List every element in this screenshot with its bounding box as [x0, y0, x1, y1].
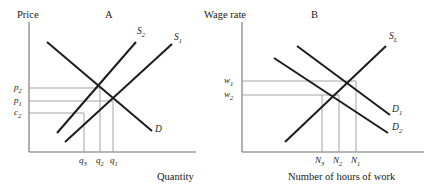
panel-b-x-tick-n3-sub: 3: [321, 160, 324, 167]
panel-b-curve-label-sl: SL: [389, 32, 397, 43]
panel-b-x-tick-n2: N2: [333, 156, 342, 167]
panel-a-curve-label-s1-sub: 1: [179, 37, 182, 44]
panel-a-y-tick-p1: p1: [14, 96, 22, 107]
panel-a-guides: [29, 88, 113, 152]
panel-b-y-tick-w1: w1: [224, 76, 233, 87]
panel-a-x-tick-q1-sub: 1: [115, 160, 118, 167]
panel-b-y-tick-w2-sub: 2: [230, 94, 233, 101]
panel-b-y-axis-title: Wage rate: [204, 10, 246, 21]
panel-a-y-tick-c2: c2: [14, 108, 21, 119]
panel-b-x-tick-n3: N3: [315, 156, 324, 167]
curve-demand-d: [47, 42, 152, 131]
panel-a-y-tick-p2: p2: [14, 83, 22, 94]
panel-a-curve-label-s1: S1: [174, 33, 182, 44]
panel-b-curve-label-d1-sub: 1: [399, 109, 402, 116]
panel-a-y-tick-c2-sub: 2: [18, 112, 21, 119]
curve-demand-d2: [274, 58, 388, 133]
panel-b-y-tick-w2: w2: [224, 90, 233, 101]
panel-b-curve-label-d2-sub: 2: [399, 127, 402, 134]
panel-a-curve-label-d: D: [155, 125, 162, 135]
panel-a-curve-label-s2-sub: 2: [142, 31, 145, 38]
economics-figure: Price A Quantity p2 p1 c2 q3 q2 q1 S2 S1…: [0, 0, 427, 194]
panel-a-x-axis-title: Quantity: [157, 172, 194, 183]
panel-a-x-tick-q3-sub: 3: [84, 160, 87, 167]
panel-b-y-tick-w1-sub: 1: [230, 80, 233, 87]
panel-a-curves: [47, 42, 172, 142]
panel-b-letter: B: [311, 10, 318, 21]
panel-a-x-tick-q2: q2: [96, 156, 104, 167]
panel-a-y-axis-title: Price: [17, 10, 39, 21]
panel-b-curve-label-d2-base: D: [392, 122, 399, 132]
figure-canvas: [0, 0, 427, 194]
panel-b-curve-label-sl-sub: L: [394, 36, 398, 43]
panel-a-y-tick-p2-sub: 2: [19, 87, 22, 94]
panel-a-letter: A: [105, 10, 113, 21]
panel-a-x-tick-q2-sub: 2: [101, 160, 104, 167]
panel-b-x-tick-n1: N1: [351, 156, 360, 167]
panel-b-curve-label-d2: D2: [392, 123, 402, 134]
curve-supply-sl: [285, 46, 386, 142]
panel-a-x-tick-q1: q1: [110, 156, 118, 167]
panel-b-x-tick-n2-sub: 2: [339, 160, 342, 167]
panel-a-axes: [29, 22, 196, 152]
panel-b-x-tick-n1-sub: 1: [357, 160, 360, 167]
panel-a-y-tick-p1-sub: 1: [19, 100, 22, 107]
panel-b-curve-label-d1: D1: [392, 105, 402, 116]
panel-a-x-tick-q3: q3: [79, 156, 87, 167]
panel-a-curve-label-d-base: D: [155, 124, 162, 134]
panel-b-curve-label-d1-base: D: [392, 104, 399, 114]
panel-b-curves: [274, 46, 390, 142]
panel-b-x-axis-title: Number of hours of work: [288, 172, 395, 183]
panel-a-curve-label-s2: S2: [137, 27, 145, 38]
